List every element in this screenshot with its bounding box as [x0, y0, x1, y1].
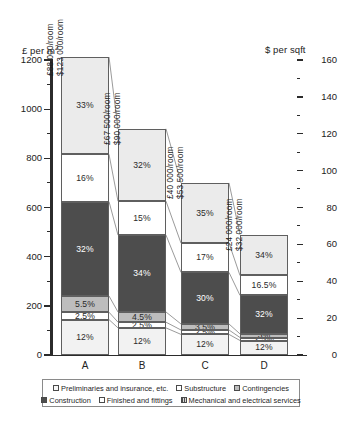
legend-label: Preliminaries and insurance, etc.: [61, 384, 168, 393]
right-axis-tick: [297, 281, 303, 282]
right-axis-tick: [297, 318, 303, 319]
legend-row-1: Preliminaries and insurance, etc.Substru…: [46, 382, 296, 394]
left-axis-tick-label: 0: [10, 349, 42, 360]
bar-b[interactable]: 12%2.5%4.5%34%15%32%: [118, 129, 166, 355]
bar-segment-value: 16%: [76, 174, 94, 183]
left-axis-tick-label: 800: [10, 152, 42, 163]
bar-segment-value: 12%: [76, 333, 94, 342]
right-axis-tick-label: 60: [307, 238, 337, 249]
bar-segment-finish[interactable]: 15%: [118, 201, 166, 235]
right-axis-tick: [297, 244, 303, 245]
right-axis-tick-label: 160: [307, 54, 337, 65]
right-axis-tick-label: 80: [307, 202, 337, 213]
bar-a-cost-label: £88 000/room$123 000/room: [45, 19, 65, 76]
bar-segment-value: 34%: [255, 251, 273, 260]
right-axis-tick: [297, 299, 300, 300]
category-label-c: C: [185, 360, 225, 371]
bar-segment-constr[interactable]: 30%: [181, 272, 229, 324]
legend-swatch-sub-icon: [176, 385, 182, 391]
bar-d[interactable]: 12%2.5%3%32%16.5%34%: [240, 235, 288, 355]
left-axis-tick: [44, 305, 50, 306]
right-axis-tick: [297, 262, 300, 263]
legend-label: Finished and fittings: [107, 396, 173, 405]
right-axis-tick: [297, 152, 300, 153]
left-axis-tick: [47, 231, 50, 232]
cost-per-room-usd: $53 500/room: [175, 147, 185, 199]
bar-c-cost-label: £40 000/room$53 500/room: [165, 147, 185, 199]
legend-label: Contingencies: [242, 384, 289, 393]
bar-segment-value: 17%: [196, 253, 214, 262]
bar-segment-value: 32%: [133, 161, 151, 170]
right-axis-tick-label: 120: [307, 128, 337, 139]
left-axis-tick: [44, 109, 50, 110]
bar-segment-value: 4.5%: [132, 313, 152, 322]
left-axis-tick-label: 200: [10, 300, 42, 311]
bar-segment-value: 34%: [133, 269, 151, 278]
bar-segment-prelim[interactable]: 12%: [181, 334, 229, 355]
bar-segment-sub[interactable]: 2.5%: [118, 322, 166, 328]
right-axis-tick: [297, 78, 300, 79]
bar-segment-value: 30%: [196, 294, 214, 303]
right-axis-tick: [297, 207, 303, 208]
cost-per-room-gbp: £67 500/room: [102, 92, 112, 144]
legend-swatch-constr-icon: [41, 397, 47, 403]
left-axis-tick: [44, 158, 50, 159]
bar-segment-cont[interactable]: 4.5%: [118, 312, 166, 322]
legend-item-sub[interactable]: Substructure: [176, 384, 226, 393]
bar-segment-mech[interactable]: 35%: [181, 183, 229, 243]
right-axis-tick: [297, 225, 300, 226]
bar-segment-finish[interactable]: 16%: [61, 154, 109, 201]
bar-segment-finish[interactable]: 17%: [181, 243, 229, 272]
legend-item-constr[interactable]: Construction: [41, 396, 91, 405]
right-axis-tick: [297, 336, 300, 337]
legend-item-finish[interactable]: Finished and fittings: [99, 396, 173, 405]
bar-segment-value: 35%: [196, 209, 214, 218]
chart-legend: Preliminaries and insurance, etc.Substru…: [42, 379, 300, 407]
bar-segment-sub[interactable]: 2.5%: [181, 330, 229, 334]
bar-segment-cont[interactable]: 3.5%: [181, 324, 229, 330]
bar-segment-cont[interactable]: 5.5%: [61, 296, 109, 312]
legend-item-prelim[interactable]: Preliminaries and insurance, etc.: [53, 384, 168, 393]
bar-segment-value: 5.5%: [75, 300, 95, 309]
bar-segment-value: 3.5%: [195, 324, 215, 330]
legend-label: Construction: [49, 396, 91, 405]
legend-item-mech[interactable]: Mechanical and electrical services: [181, 396, 301, 405]
bar-segment-value: 12%: [255, 343, 273, 352]
bar-c[interactable]: 12%2.5%3.5%30%17%35%: [181, 183, 229, 355]
bar-segment-sub[interactable]: 2.5%: [61, 312, 109, 319]
cost-per-room-usd: $123 000/room: [55, 19, 65, 76]
right-axis-tick: [297, 115, 300, 116]
right-axis-tick: [297, 59, 303, 60]
bar-segment-value: 16.5%: [252, 281, 277, 290]
legend-row-2: ConstructionFinished and fittingsMechani…: [46, 394, 296, 406]
bar-segment-value: 2.5%: [254, 338, 274, 341]
bar-segment-value: 2.5%: [195, 330, 215, 334]
right-axis-tick: [297, 188, 300, 189]
bar-segment-prelim[interactable]: 12%: [240, 341, 288, 355]
bar-segment-constr[interactable]: 32%: [240, 295, 288, 334]
left-axis-tick-label: 400: [10, 251, 42, 262]
bar-segment-finish[interactable]: 16.5%: [240, 275, 288, 295]
bar-segment-value: 33%: [76, 101, 94, 110]
category-label-a: A: [65, 360, 105, 371]
right-axis-tick: [297, 354, 303, 355]
bar-segment-prelim[interactable]: 12%: [61, 320, 109, 355]
bar-b-cost-label: £67 500/room$90 000/room: [102, 92, 122, 144]
bar-segment-value: 12%: [133, 337, 151, 346]
bar-segment-mech[interactable]: 34%: [240, 235, 288, 276]
legend-swatch-finish-icon: [99, 397, 105, 403]
legend-item-cont[interactable]: Contingencies: [234, 384, 289, 393]
left-axis-tick: [47, 330, 50, 331]
legend-label: Substructure: [184, 384, 226, 393]
bar-segment-mech[interactable]: 32%: [118, 129, 166, 201]
right-axis-tick: [297, 170, 303, 171]
bar-segment-prelim[interactable]: 12%: [118, 328, 166, 355]
cost-per-room-usd: $32 000/room: [234, 198, 244, 250]
left-axis-tick-label: 1000: [10, 103, 42, 114]
bar-segment-sub[interactable]: 2.5%: [240, 338, 288, 341]
bar-segment-constr[interactable]: 34%: [118, 235, 166, 312]
bar-segment-cont[interactable]: 3%: [240, 334, 288, 338]
right-axis-tick-label: 100: [307, 165, 337, 176]
legend-swatch-cont-icon: [234, 385, 240, 391]
bar-segment-constr[interactable]: 32%: [61, 202, 109, 296]
